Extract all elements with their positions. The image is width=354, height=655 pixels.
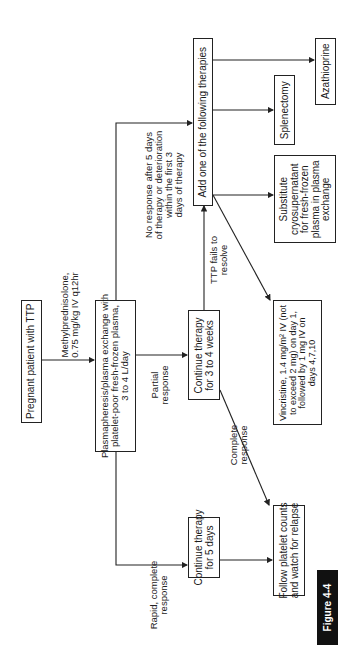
node-add-therapies: Add one of the following therapies bbox=[193, 38, 213, 206]
node-splenectomy: Splenectomy bbox=[274, 75, 295, 145]
label-rapid-complete-response: Rapid, complete response bbox=[146, 565, 172, 625]
label-partial-response: Partial response bbox=[148, 365, 172, 405]
label-methylprednisolone: Methylprednisolone, 0.75 mg/kg IV q12hr bbox=[56, 290, 84, 340]
node-follow-platelets: Follow platelet counts and watch for rel… bbox=[273, 505, 305, 596]
label-complete-response: Complete response bbox=[226, 420, 252, 470]
node-cryosupernatant: Substitute cryosupernatant for fresh-fro… bbox=[274, 155, 336, 243]
node-continue-5-days: Continue therapy for 5 days bbox=[188, 517, 220, 578]
node-continue-3-4-weeks: Continue therapy for 3 to 4 weeks bbox=[188, 310, 220, 400]
node-vincristine: Vincristine, 1.4 mg/m² IV (not to exceed… bbox=[273, 300, 322, 425]
figure-label: Figure 4-4 bbox=[317, 570, 338, 645]
node-plasmapheresis: Plasmapheresis/plasma exchange with plat… bbox=[95, 300, 136, 452]
node-pregnant-patient: Pregnant patient with TTP bbox=[21, 300, 42, 423]
node-azathioprine: Azathioprine bbox=[315, 38, 336, 105]
label-ttp-fails: TTP fails to resolve bbox=[206, 230, 232, 290]
label-no-response: No response after 5 days of therapy or d… bbox=[140, 130, 188, 240]
